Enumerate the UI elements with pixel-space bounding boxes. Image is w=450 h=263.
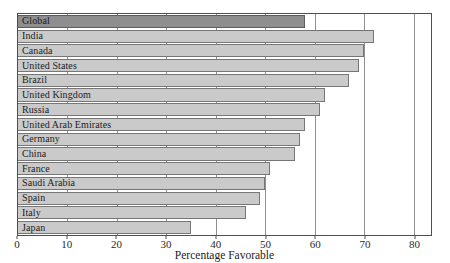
bar-category-label: Canada: [18, 46, 53, 56]
bar-row: France: [18, 161, 431, 176]
bar-category-label: France: [18, 164, 50, 174]
bar-category-label: China: [18, 149, 46, 159]
bar-row: Japan: [18, 220, 431, 235]
bar-category-label: Saudi Arabia: [18, 178, 75, 188]
bar-row: Germany: [18, 132, 431, 147]
bar-category-label: Russia: [18, 105, 49, 115]
x-tick-label-0: 0: [14, 239, 20, 250]
bar-row: Italy: [18, 206, 431, 221]
bar-row: Canada: [18, 43, 431, 58]
bar-global: Global: [18, 15, 305, 28]
bar-spain: Spain: [18, 192, 260, 205]
bar-united-states: United States: [18, 59, 359, 72]
bar-row: Brazil: [18, 73, 431, 88]
bar-brazil: Brazil: [18, 74, 349, 87]
bar-category-label: Japan: [18, 223, 45, 233]
x-tick-label-10: 10: [61, 239, 72, 250]
bar-category-label: Italy: [18, 208, 41, 218]
x-tick-label-20: 20: [111, 239, 122, 250]
bar-india: India: [18, 30, 374, 43]
bar-row: Global: [18, 14, 431, 29]
bar-category-label: Global: [18, 16, 50, 26]
bar-row: Spain: [18, 191, 431, 206]
bar-category-label: United Kingdom: [18, 90, 91, 100]
bar-category-label: Spain: [18, 193, 45, 203]
x-axis-label: Percentage Favorable: [17, 250, 432, 262]
bar-row: India: [18, 29, 431, 44]
plot-area: GlobalIndiaCanadaUnited StatesBrazilUnit…: [17, 13, 432, 236]
x-tick-label-80: 80: [409, 239, 420, 250]
bar-united-arab-emirates: United Arab Emirates: [18, 118, 305, 131]
bar-canada: Canada: [18, 44, 364, 57]
bar-row: Russia: [18, 102, 431, 117]
bar-china: China: [18, 147, 295, 160]
bar-row: Saudi Arabia: [18, 176, 431, 191]
bar-category-label: United Arab Emirates: [18, 120, 111, 130]
bar-row: United Kingdom: [18, 88, 431, 103]
bar-italy: Italy: [18, 206, 246, 219]
x-tick-label-60: 60: [310, 239, 321, 250]
bars-container: GlobalIndiaCanadaUnited StatesBrazilUnit…: [18, 14, 431, 235]
bar-row: United States: [18, 58, 431, 73]
bar-japan: Japan: [18, 221, 191, 234]
bar-russia: Russia: [18, 103, 320, 116]
x-tick-label-30: 30: [161, 239, 172, 250]
bar-united-kingdom: United Kingdom: [18, 88, 325, 101]
bar-category-label: India: [18, 31, 43, 41]
x-tick-label-70: 70: [359, 239, 370, 250]
bar-germany: Germany: [18, 133, 300, 146]
bar-chart-figure: GlobalIndiaCanadaUnited StatesBrazilUnit…: [0, 0, 450, 263]
bar-row: United Arab Emirates: [18, 117, 431, 132]
bar-saudi-arabia: Saudi Arabia: [18, 177, 265, 190]
bar-france: France: [18, 162, 270, 175]
bar-row: China: [18, 147, 431, 162]
bar-category-label: Germany: [18, 134, 60, 144]
bar-category-label: United States: [18, 61, 77, 71]
bar-category-label: Brazil: [18, 75, 47, 85]
